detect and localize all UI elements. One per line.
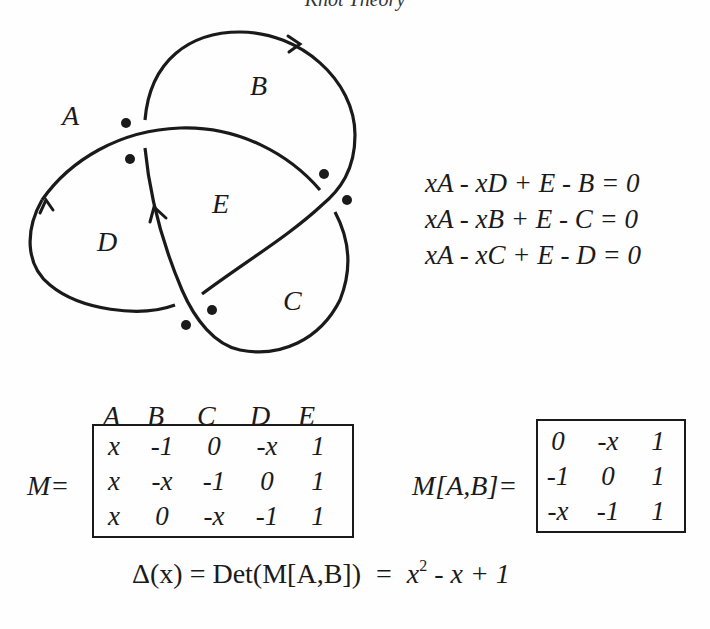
matrix-cell: -1 [588, 496, 628, 527]
arc-upper [42, 128, 320, 200]
matrix-cell: 0 [588, 461, 628, 492]
matrix-cell: 0 [247, 466, 287, 497]
crossing-dot [319, 169, 329, 179]
matrix-cell: 1 [638, 496, 678, 527]
trefoil-knot-diagram [0, 0, 400, 380]
matrix-cell: x [94, 501, 134, 532]
matrix-cell: x [94, 431, 134, 462]
region-label-a: A [62, 102, 79, 130]
matrix-cell: -1 [538, 461, 578, 492]
det-lhs: Δ(x) = Det(M[A,B]) [132, 558, 361, 589]
crossing-dot [207, 305, 217, 315]
det-rhs-exp: 2 [419, 557, 427, 574]
matrix-m-a-b: 0 -x 1 -1 0 1 -x -1 1 [536, 419, 686, 533]
det-rhs-base: x [407, 558, 419, 589]
matrix-m-label: M= [27, 470, 69, 502]
equation-3: xA - xC + E - D = 0 [425, 237, 641, 273]
det-rhs-rest: - x + 1 [427, 558, 510, 589]
matrix-cell: -1 [247, 501, 287, 532]
matrix-cell: -x [247, 431, 287, 462]
matrix-mab-label: M[A,B]= [412, 470, 517, 502]
matrix-cell: -x [142, 466, 182, 497]
matrix-cell: 0 [142, 501, 182, 532]
matrix-cell: -x [194, 501, 234, 532]
matrix-cell: 0 [194, 431, 234, 462]
matrix-cell: 1 [638, 461, 678, 492]
matrix-cell: -1 [142, 431, 182, 462]
matrix-cell: 1 [638, 426, 678, 457]
alexander-polynomial-formula: Δ(x) = Det(M[A,B]) = x2 - x + 1 [132, 558, 510, 590]
crossing-dot [121, 118, 131, 128]
matrix-cell: -x [538, 496, 578, 527]
region-label-b: B [250, 72, 267, 100]
crossing-dot [181, 320, 191, 330]
region-label-c: C [283, 287, 302, 315]
matrix-cell: 0 [538, 426, 578, 457]
matrix-m: x -1 0 -x 1 x -x -1 0 1 x 0 -x -1 1 [92, 424, 354, 538]
matrix-cell: 1 [298, 466, 338, 497]
region-label-d: D [97, 228, 117, 256]
alexander-equations: xA - xD + E - B = 0 xA - xB + E - C = 0 … [425, 165, 641, 273]
matrix-cell: -1 [194, 466, 234, 497]
matrix-cell: 1 [298, 501, 338, 532]
matrix-cell: -x [588, 426, 628, 457]
equation-1: xA - xD + E - B = 0 [425, 165, 641, 201]
page: Knot Theory A B E D C [0, 0, 710, 629]
crossing-dot [342, 195, 352, 205]
equation-2: xA - xB + E - C = 0 [425, 201, 641, 237]
crossing-dot [125, 154, 135, 164]
matrix-cell: 1 [298, 431, 338, 462]
matrix-cell: x [94, 466, 134, 497]
region-label-e: E [212, 190, 229, 218]
det-equals: = [376, 558, 392, 589]
arc-inner [145, 148, 348, 352]
